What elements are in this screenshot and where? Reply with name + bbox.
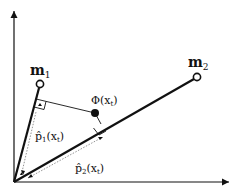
label-phi: Φ(xt) xyxy=(91,94,118,108)
p2-arrowhead-end xyxy=(98,137,103,140)
label-m2: m2 xyxy=(188,54,209,72)
label-m1: m1 xyxy=(30,62,51,80)
label-p2: p̂2(xt) xyxy=(75,162,104,176)
point-m1 xyxy=(36,80,43,87)
projection-diagram: m1 m2 Φ(xt) p̂1(xt) p̂2(xt) xyxy=(0,0,238,194)
p1-arrowhead xyxy=(21,170,25,175)
diagram-canvas: m1 m2 Φ(xt) p̂1(xt) p̂2(xt) xyxy=(0,0,238,194)
tiny-arrow-m1 xyxy=(38,103,42,106)
point-m2 xyxy=(193,73,200,80)
label-p1: p̂1(xt) xyxy=(35,130,64,144)
point-phi xyxy=(91,109,99,117)
